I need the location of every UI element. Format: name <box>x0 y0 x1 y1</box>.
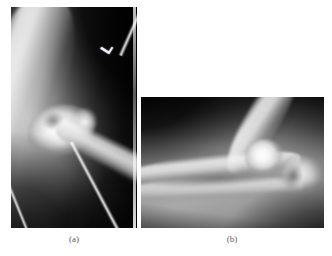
panel-a-film-edge-line <box>133 7 136 228</box>
xray-panel-b[interactable] <box>141 97 324 228</box>
panel-a-caption: (a) <box>54 234 94 244</box>
figure-container: L (a) (b) <box>0 0 332 256</box>
panel-b-lower-dark-corner <box>141 97 324 228</box>
panel-b-caption: (b) <box>212 234 252 244</box>
xray-panel-a[interactable]: L <box>11 7 137 228</box>
